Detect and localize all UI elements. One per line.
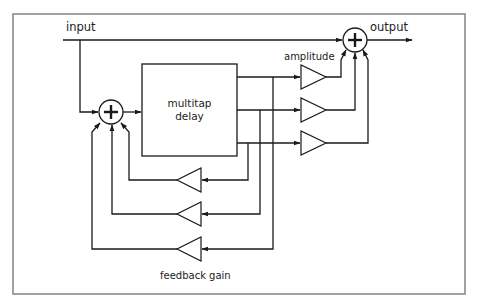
delay-label-line2: delay xyxy=(175,110,204,122)
output-summing-junction xyxy=(343,28,367,52)
diagram-frame xyxy=(13,14,465,294)
multitap-delay-block: multitap delay xyxy=(142,64,237,156)
delay-label-line1: multitap xyxy=(167,97,211,109)
input-summing-junction xyxy=(99,100,123,124)
multitap-delay-diagram: input output amplitude feedback gain mul… xyxy=(0,0,477,305)
amplitude-label: amplitude xyxy=(284,51,335,62)
output-label: output xyxy=(370,20,408,34)
feedback-gain-label: feedback gain xyxy=(160,270,231,281)
input-label: input xyxy=(66,20,96,34)
